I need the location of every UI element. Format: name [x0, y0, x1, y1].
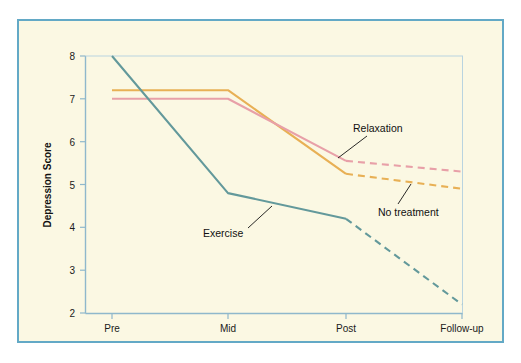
- series-relaxation-solid: [112, 99, 346, 161]
- x-tick-label-follow-up: Follow-up: [440, 323, 484, 334]
- annotation-relaxation: Relaxation: [338, 122, 403, 158]
- y-tick-label-7: 7: [69, 94, 75, 105]
- axes-group: [86, 56, 464, 314]
- y-tick-group: 8 7 6 5 4 3 2: [69, 51, 85, 319]
- annotation-exercise-label: Exercise: [203, 227, 243, 239]
- y-tick-label-3: 3: [69, 265, 75, 276]
- series-relaxation: [112, 99, 462, 172]
- y-tick-label-4: 4: [69, 222, 75, 233]
- annotation-no-treatment: No treatment: [378, 184, 439, 218]
- x-tick-group: Pre Mid Post Follow-up: [104, 314, 484, 335]
- series-no-treatment-dashed: [346, 174, 462, 189]
- annotation-exercise-leader: [248, 206, 272, 228]
- annotation-no-treatment-leader: [398, 184, 411, 204]
- annotation-relaxation-label: Relaxation: [353, 122, 403, 134]
- x-tick-label-post: Post: [336, 323, 356, 334]
- y-tick-label-2: 2: [69, 308, 75, 319]
- figure-canvas: 8 7 6 5 4 3 2 Pre Mid Post Follow-up Dep…: [0, 0, 521, 363]
- chart-plot: 8 7 6 5 4 3 2 Pre Mid Post Follow-up Dep…: [0, 0, 521, 363]
- y-tick-label-8: 8: [69, 51, 75, 62]
- series-relaxation-dashed: [346, 161, 462, 172]
- y-tick-label-5: 5: [69, 180, 75, 191]
- series-no-treatment-solid: [112, 90, 346, 174]
- y-axis-title: Depression Score: [42, 142, 53, 227]
- y-tick-label-6: 6: [69, 137, 75, 148]
- annotation-relaxation-leader: [338, 136, 367, 158]
- x-tick-label-pre: Pre: [104, 323, 120, 334]
- series-exercise: [112, 56, 462, 305]
- series-exercise-dashed: [346, 219, 462, 305]
- x-tick-label-mid: Mid: [220, 323, 236, 334]
- annotation-exercise: Exercise: [203, 206, 272, 239]
- series-no-treatment: [112, 90, 462, 189]
- series-exercise-solid: [112, 56, 346, 219]
- annotation-no-treatment-label: No treatment: [378, 206, 439, 218]
